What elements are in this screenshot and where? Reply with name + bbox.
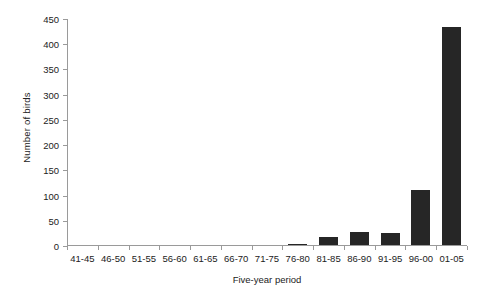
plot-area: 05010015020025030035040045041-4546-5051-…	[67, 19, 467, 246]
y-axis-tick	[63, 221, 67, 222]
bar	[442, 27, 461, 245]
y-axis-tick	[63, 69, 67, 70]
x-axis-tick-label: 46-50	[101, 253, 125, 264]
y-axis-tick	[63, 44, 67, 45]
x-axis-tick-label: 76-80	[286, 253, 310, 264]
x-axis-tick	[405, 246, 406, 250]
x-axis-tick	[190, 246, 191, 250]
y-axis-tick	[63, 145, 67, 146]
x-axis-tick-label: 91-95	[378, 253, 402, 264]
x-axis-tick-label: 71-75	[255, 253, 279, 264]
y-axis-tick	[63, 19, 67, 20]
x-axis-tick-label: 86-90	[347, 253, 371, 264]
bar	[381, 233, 400, 245]
x-axis-tick-label: 41-45	[70, 253, 94, 264]
x-axis-tick-label: 56-60	[163, 253, 187, 264]
y-axis-title: Number of birds	[21, 58, 32, 198]
y-axis-tick	[63, 120, 67, 121]
x-axis-tick	[98, 246, 99, 250]
bar	[411, 190, 430, 245]
bar	[288, 244, 307, 246]
x-axis-tick	[221, 246, 222, 250]
x-axis-tick	[67, 246, 68, 250]
x-axis-tick-label: 81-85	[316, 253, 340, 264]
x-axis-tick-label: 61-65	[193, 253, 217, 264]
y-axis-tick-label: 300	[43, 89, 59, 100]
x-axis-tick-label: 01-05	[439, 253, 463, 264]
x-axis-tick	[282, 246, 283, 250]
y-axis-tick-label: 150	[43, 165, 59, 176]
x-axis-tick	[467, 246, 468, 250]
y-axis-tick-label: 450	[43, 14, 59, 25]
y-axis-tick-label: 250	[43, 114, 59, 125]
x-axis-tick	[436, 246, 437, 250]
bar-chart: Number of birds 050100150200250300350400…	[0, 0, 485, 298]
x-axis-tick-label: 66-70	[224, 253, 248, 264]
x-axis-tick	[344, 246, 345, 250]
y-axis-tick	[63, 196, 67, 197]
x-axis-tick	[375, 246, 376, 250]
x-axis-tick	[252, 246, 253, 250]
y-axis-tick-label: 100	[43, 190, 59, 201]
bar	[319, 237, 338, 245]
x-axis-title: Five-year period	[67, 274, 467, 285]
y-axis-tick	[63, 95, 67, 96]
y-axis-tick	[63, 170, 67, 171]
x-axis-line	[67, 245, 467, 246]
y-axis-line	[67, 19, 68, 246]
x-axis-tick	[129, 246, 130, 250]
y-axis-tick-label: 400	[43, 39, 59, 50]
y-axis-tick-label: 200	[43, 140, 59, 151]
y-axis-tick-label: 350	[43, 64, 59, 75]
y-axis-tick-label: 50	[48, 215, 59, 226]
x-axis-tick	[159, 246, 160, 250]
x-axis-tick-label: 51-55	[132, 253, 156, 264]
y-axis-tick-label: 0	[54, 241, 59, 252]
x-axis-tick-label: 96-00	[409, 253, 433, 264]
x-axis-tick	[313, 246, 314, 250]
bar	[350, 232, 369, 245]
